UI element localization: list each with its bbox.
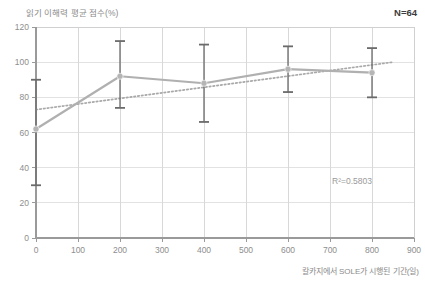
data-point-marker	[285, 66, 291, 72]
x-tick-label: 0	[34, 245, 39, 255]
chart-figure: 읽기 이해력 평균 점수(%) N=64 R²=0.5803 칼카지에서 SOL…	[0, 0, 425, 281]
y-tick-label: 60	[20, 128, 30, 138]
x-tick-label: 300	[155, 245, 169, 255]
x-tick-label: 900	[407, 245, 421, 255]
y-tick-label: 120	[15, 22, 29, 32]
y-tick-label: 0	[24, 233, 29, 243]
x-tick-label: 200	[113, 245, 127, 255]
y-tick-label: 100	[15, 57, 29, 67]
x-tick-label: 600	[281, 245, 295, 255]
y-tick-label: 40	[20, 163, 30, 173]
data-point-marker	[117, 73, 123, 79]
data-point-marker	[201, 80, 207, 86]
x-tick-label: 500	[239, 245, 253, 255]
trendline	[36, 62, 393, 109]
x-tick-label: 100	[71, 245, 85, 255]
x-tick-label: 800	[365, 245, 379, 255]
x-tick-label: 700	[323, 245, 337, 255]
y-tick-label: 20	[20, 198, 30, 208]
data-point-marker	[33, 126, 39, 132]
plot-canvas: 0204060801001200100200300400500600700800…	[0, 0, 425, 281]
y-tick-label: 80	[20, 92, 30, 102]
x-tick-label: 400	[197, 245, 211, 255]
data-point-marker	[369, 70, 375, 76]
